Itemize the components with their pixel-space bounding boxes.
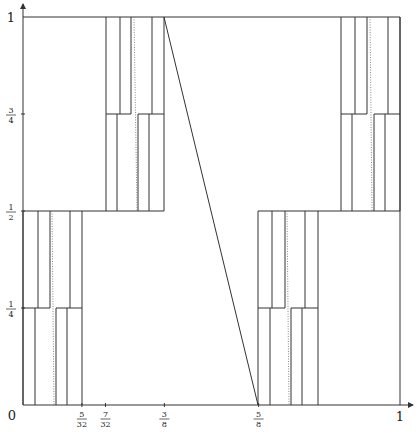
y-label-one: 1	[7, 10, 15, 25]
x-tick-label: 732	[100, 410, 110, 429]
frame-lines	[23, 17, 400, 405]
axis-labels: 0115327323858141234	[6, 10, 404, 429]
x-tick-label: 532	[77, 410, 87, 429]
step-function-diagram: 0115327323858141234	[0, 0, 419, 435]
fraction-denominator: 2	[8, 213, 13, 222]
fraction-numerator: 5	[256, 410, 261, 419]
fraction-denominator: 32	[77, 420, 87, 429]
block-top-middle	[106, 17, 164, 211]
block-bottom-left	[23, 211, 82, 405]
block-bottom-right	[258, 211, 318, 405]
dotted-line	[52, 211, 54, 405]
dotted-line	[287, 211, 289, 405]
y-tick-label: 34	[6, 106, 16, 125]
x-tick-label: 58	[254, 410, 264, 429]
x-label-zero: 0	[8, 408, 16, 423]
fraction-denominator: 4	[8, 116, 13, 125]
fraction-numerator: 7	[103, 410, 108, 419]
fraction-denominator: 8	[162, 420, 167, 429]
fraction-numerator: 1	[8, 300, 13, 309]
fraction-numerator: 3	[8, 106, 13, 115]
diagonal-line	[164, 17, 258, 405]
dotted-line	[134, 17, 137, 211]
axes	[21, 4, 413, 407]
fraction-denominator: 4	[8, 310, 13, 319]
x-tick-label: 38	[159, 410, 169, 429]
fraction-numerator: 5	[79, 410, 84, 419]
y-tick-label: 12	[6, 203, 16, 222]
y-tick-label: 14	[6, 300, 16, 319]
fraction-denominator: 32	[100, 420, 110, 429]
dotted-line	[370, 17, 372, 211]
x-label-one: 1	[396, 409, 404, 424]
fraction-numerator: 3	[162, 410, 167, 419]
fraction-denominator: 8	[256, 420, 261, 429]
block-top-right	[341, 17, 400, 211]
fraction-numerator: 1	[8, 203, 13, 212]
